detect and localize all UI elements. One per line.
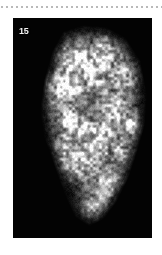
separator-dot [36,6,38,8]
density-map-canvas [13,18,152,238]
separator-dot [11,6,13,8]
figure-number-label: 15 [19,26,28,36]
separator-dot [101,6,103,8]
page-canvas: 15 [0,0,162,255]
separator-dot [156,6,158,8]
separator-dot [61,6,63,8]
separator-dot [6,6,8,8]
separator-dot [141,6,143,8]
separator-dot [111,6,113,8]
separator-dot [71,6,73,8]
separator-dot [51,6,53,8]
figure-panel: 15 [13,18,152,238]
separator-dot [81,6,83,8]
separator-dot [21,6,23,8]
separator-dot [151,6,153,8]
separator-dot [41,6,43,8]
separator-dot [26,6,28,8]
separator-dot [131,6,133,8]
separator-dot [31,6,33,8]
separator-dot [161,6,162,8]
separator-dot [1,6,3,8]
separator-dot [146,6,148,8]
separator-dot [76,6,78,8]
separator-dot [96,6,98,8]
separator-dot [66,6,68,8]
separator-dot [56,6,58,8]
separator-dot [46,6,48,8]
separator-dot [16,6,18,8]
density-map-image [13,18,152,238]
separator-dot [91,6,93,8]
separator-dot [121,6,123,8]
separator-dot [126,6,128,8]
dotted-separator-line [0,6,162,9]
separator-dot [136,6,138,8]
separator-dot [86,6,88,8]
separator-dot [106,6,108,8]
separator-dot [116,6,118,8]
